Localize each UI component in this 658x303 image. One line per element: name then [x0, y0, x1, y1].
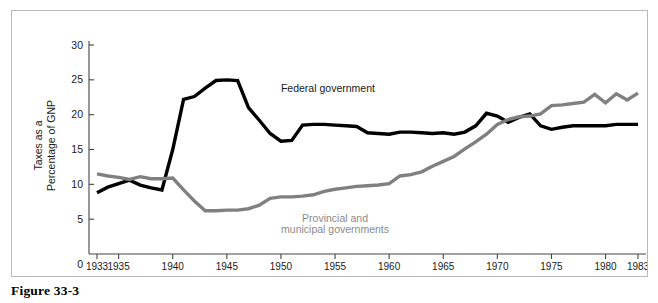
figure-root: 5101520253001933193519401945195019551960… [0, 0, 658, 303]
y-axis-title-line2: Percentage of GNP [45, 100, 57, 191]
x-axis-tick-label: 1955 [324, 261, 347, 272]
y-axis-tick-label: 5 [77, 213, 83, 225]
x-axis-tick-label: 1950 [270, 261, 293, 272]
x-axis-tick-label: 1983 [627, 261, 647, 272]
series-line-provincial-municipal [97, 93, 638, 211]
series-label-provincial-line2: municipal governments [281, 223, 389, 235]
origin-zero-label: 0 [77, 258, 83, 270]
x-axis-tick-label: 1965 [432, 261, 455, 272]
y-axis-tick-label: 15 [71, 143, 83, 155]
x-axis-tick-label: 1935 [108, 261, 131, 272]
y-axis-title-line1: Taxes as a [32, 120, 44, 170]
x-axis-tick-label: 1960 [378, 261, 401, 272]
figure-frame: 5101520253001933193519401945195019551960… [11, 10, 648, 277]
x-axis-tick-label: 1933 [86, 261, 109, 272]
series-label-federal-government: Federal government [281, 82, 375, 94]
line-chart: 5101520253001933193519401945195019551960… [12, 11, 647, 276]
x-axis-tick-label: 1945 [216, 261, 239, 272]
y-axis-tick-label: 10 [71, 178, 83, 190]
y-axis-tick-label: 20 [71, 108, 83, 120]
figure-caption: Figure 33-3 [11, 283, 79, 299]
x-axis-tick-label: 1940 [162, 261, 185, 272]
y-axis-tick-label: 25 [71, 73, 83, 85]
series-line-federal [97, 80, 638, 193]
x-axis-tick-label: 1975 [540, 261, 563, 272]
x-axis-tick-label: 1970 [486, 261, 509, 272]
x-axis-tick-label: 1980 [594, 261, 617, 272]
y-axis-tick-label: 30 [71, 39, 83, 51]
